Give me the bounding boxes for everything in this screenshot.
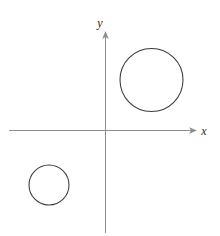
y-axis-label: y	[96, 16, 103, 30]
y-axis: y	[96, 16, 108, 233]
figure-canvas: x y	[0, 0, 220, 236]
large-circle	[120, 49, 183, 112]
coordinate-plane-figure: x y	[0, 0, 220, 236]
x-axis: x	[9, 124, 207, 138]
x-axis-label: x	[200, 124, 207, 138]
small-circle	[29, 165, 69, 205]
